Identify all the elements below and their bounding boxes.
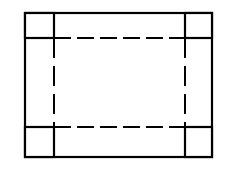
figure-canvas (0, 0, 234, 179)
corner-square-bottom-left (25, 127, 54, 157)
corner-square-bottom-right (185, 127, 212, 157)
box-development-diagram (0, 0, 234, 179)
corner-square-top-right (185, 13, 212, 38)
corner-square-top-left (25, 13, 54, 38)
